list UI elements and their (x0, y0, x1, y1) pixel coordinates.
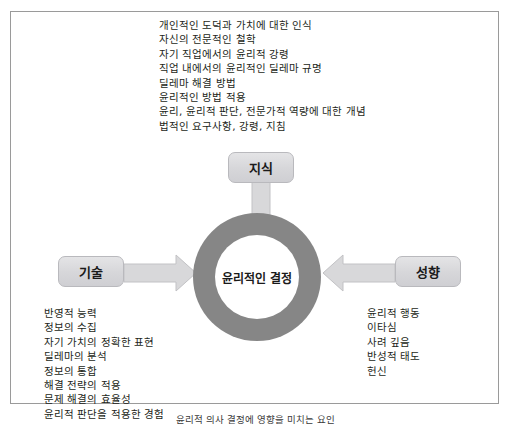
list-item: 윤리적 행동 (367, 306, 420, 320)
list-item: 자기 가치의 정확한 표현 (44, 335, 164, 349)
list-item: 딜레마의 분석 (44, 349, 164, 363)
list-item: 자기 직업에서의 윤리적 강령 (159, 47, 366, 61)
list-item: 해결 전략의 적용 (44, 378, 164, 392)
list-item: 이타심 (367, 320, 420, 334)
node-disposition: 성향 (395, 256, 461, 287)
node-knowledge: 지식 (228, 152, 294, 183)
skill-item-list: 반영적 능력 정보의 수집 자기 가치의 정확한 표현 딜레마의 분석 정보의 … (44, 306, 164, 421)
list-item: 윤리적인 방법 적용 (159, 90, 366, 104)
node-skill: 기술 (58, 256, 124, 287)
disposition-item-list: 윤리적 행동 이타심 사려 깊음 반성적 태도 헌신 (367, 306, 420, 378)
list-item: 정보의 통합 (44, 364, 164, 378)
center-label: 윤리적인 결정 (193, 213, 321, 341)
list-item: 자신의 전문적인 철학 (159, 32, 366, 46)
list-item: 사려 깊음 (367, 335, 420, 349)
list-item: 직업 내에서의 윤리적인 딜레마 규명 (159, 61, 366, 75)
list-item: 딜레마 해결 방법 (159, 76, 366, 90)
list-item: 법적인 요구사항, 강령, 지침 (159, 119, 366, 133)
list-item: 반성적 태도 (367, 349, 420, 363)
list-item: 문제 해결의 효율성 (44, 392, 164, 406)
list-item: 반영적 능력 (44, 306, 164, 320)
figure-caption: 윤리적 의사 결정에 영향을 미치는 요인 (0, 414, 511, 427)
knowledge-item-list: 개인적인 도덕과 가치에 대한 인식 자신의 전문적인 철학 자기 직업에서의 … (159, 18, 366, 133)
list-item: 헌신 (367, 364, 420, 378)
list-item: 개인적인 도덕과 가치에 대한 인식 (159, 18, 366, 32)
diagram-canvas: 개인적인 도덕과 가치에 대한 인식 자신의 전문적인 철학 자기 직업에서의 … (0, 0, 511, 427)
list-item: 윤리, 윤리적 판단, 전문가적 역량에 대한 개념 (159, 104, 366, 118)
list-item: 정보의 수집 (44, 320, 164, 334)
central-ring: 윤리적인 결정 (193, 213, 321, 341)
